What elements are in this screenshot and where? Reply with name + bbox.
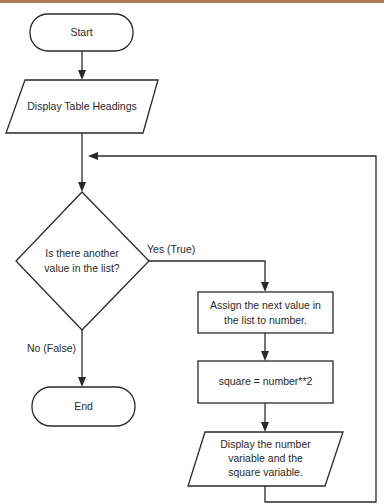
display-headings-io: Display Table Headings xyxy=(6,80,158,133)
start-label: Start xyxy=(70,26,92,38)
compute-process: square = number**2 xyxy=(198,361,333,403)
display-values-line-1: Display the number xyxy=(220,438,311,450)
assign-line-2: the list to number. xyxy=(224,314,307,326)
display-values-line-2: variable and the xyxy=(228,452,303,464)
yes-label: Yes (True) xyxy=(147,243,195,255)
arrow-compute-to-display xyxy=(261,403,269,432)
decision-line-1: Is there another xyxy=(45,247,119,259)
top-border xyxy=(0,0,384,3)
assign-process: Assign the next value in the list to num… xyxy=(198,292,333,333)
display-headings-label: Display Table Headings xyxy=(27,100,137,112)
yes-branch: Yes (True) xyxy=(147,243,269,292)
display-values-io: Display the number variable and the squa… xyxy=(188,432,343,486)
arrow-display-to-decision xyxy=(78,133,86,192)
end-label: End xyxy=(74,400,93,412)
decision-diamond: Is there another value in the list? xyxy=(16,192,149,330)
assign-line-1: Assign the next value in xyxy=(210,299,321,311)
arrow-start-to-display xyxy=(78,51,86,80)
no-branch: No (False) xyxy=(27,330,86,387)
no-label: No (False) xyxy=(27,342,76,354)
arrow-assign-to-compute xyxy=(261,333,269,361)
display-values-line-3: square variable. xyxy=(228,466,303,478)
end-terminal: End xyxy=(32,387,135,426)
compute-label: square = number**2 xyxy=(219,375,313,387)
flowchart: Start Display Table Headings Is there an… xyxy=(0,0,384,504)
start-terminal: Start xyxy=(30,14,133,51)
decision-line-2: value in the list? xyxy=(44,262,119,274)
